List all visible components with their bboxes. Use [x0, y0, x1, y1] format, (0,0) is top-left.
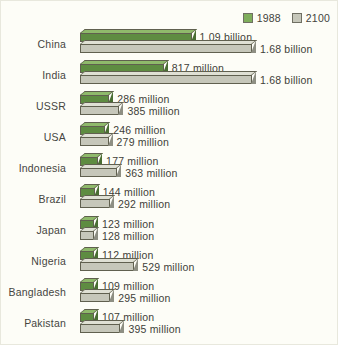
bar-2100-indonesia — [80, 168, 117, 177]
bar-front-face — [80, 262, 134, 271]
bar-front-face — [80, 106, 119, 115]
bar-group: 123 million128 million — [80, 215, 338, 246]
bar-end-cap-icon — [108, 133, 113, 146]
bar-front-face — [80, 293, 110, 302]
category-label-nigeria: Nigeria — [0, 255, 66, 267]
bar-value-label: 529 million — [142, 262, 194, 273]
bar-2100-japan — [80, 231, 94, 240]
bar-2100-china — [80, 44, 252, 53]
bar-front-face — [80, 199, 110, 208]
bar-value-label: 123 million — [102, 219, 154, 230]
category-label-pakistan: Pakistan — [0, 317, 66, 329]
bar-value-label: 363 million — [125, 168, 177, 179]
chart-row: Brazil144 million292 million — [0, 183, 338, 214]
population-bar-chart: 1988 2100 China1.09 billion1.68 billionI… — [0, 0, 338, 345]
category-label-bangladesh: Bangladesh — [0, 286, 66, 298]
bar-group: 112 million529 million — [80, 246, 338, 277]
chart-row: Bangladesh109 million295 million — [0, 277, 338, 308]
bar-end-cap-icon — [116, 164, 121, 177]
bar-front-face — [80, 75, 252, 84]
category-label-brazil: Brazil — [0, 193, 66, 205]
bar-value-label: 128 million — [102, 231, 154, 242]
bar-2100-india — [80, 75, 252, 84]
bar-value-label: 246 million — [113, 125, 165, 136]
category-label-india: India — [0, 69, 66, 81]
gray-swatch-icon — [292, 13, 302, 23]
bar-front-face — [80, 168, 117, 177]
bar-front-face — [80, 231, 94, 240]
bar-group: 107 million395 million — [80, 308, 338, 339]
bar-value-label: 286 million — [117, 94, 169, 105]
bar-end-cap-icon — [93, 227, 98, 240]
chart-row: USA246 million279 million — [0, 121, 338, 152]
chart-row: Pakistan107 million395 million — [0, 308, 338, 339]
bar-2100-pakistan — [80, 324, 120, 333]
category-label-japan: Japan — [0, 224, 66, 236]
chart-row: Japan123 million128 million — [0, 215, 338, 246]
bar-group: 286 million385 million — [80, 90, 338, 121]
bar-2100-bangladesh — [80, 293, 110, 302]
bar-end-cap-icon — [251, 71, 256, 84]
chart-row: Nigeria112 million529 million — [0, 246, 338, 277]
bar-value-label: 385 million — [127, 106, 179, 117]
bar-group: 144 million292 million — [80, 183, 338, 214]
chart-row: China1.09 billion1.68 billion — [0, 28, 338, 59]
bar-end-cap-icon — [109, 195, 114, 208]
legend-item-2100: 2100 — [292, 12, 330, 24]
bar-2100-ussr — [80, 106, 119, 115]
bar-end-cap-icon — [133, 258, 138, 271]
bar-value-label: 295 million — [118, 293, 170, 304]
green-swatch-icon — [243, 13, 253, 23]
bar-front-face — [80, 137, 109, 146]
bar-value-label: 395 million — [128, 324, 180, 335]
bar-group: 109 million295 million — [80, 277, 338, 308]
bar-group: 246 million279 million — [80, 121, 338, 152]
bar-2100-usa — [80, 137, 109, 146]
bar-front-face — [80, 324, 120, 333]
category-label-ussr: USSR — [0, 100, 66, 112]
chart-row: India817 million1.68 billion — [0, 59, 338, 90]
bar-value-label: 1.68 billion — [260, 44, 313, 55]
bar-value-label: 1.68 billion — [260, 75, 313, 86]
category-label-indonesia: Indonesia — [0, 162, 66, 174]
chart-legend: 1988 2100 — [243, 12, 330, 24]
bar-end-cap-icon — [251, 40, 256, 53]
bar-value-label: 279 million — [117, 137, 169, 148]
bar-end-cap-icon — [109, 289, 114, 302]
chart-rows: China1.09 billion1.68 billionIndia817 mi… — [0, 28, 338, 339]
legend-label-2100: 2100 — [306, 12, 330, 24]
bar-value-label: 292 million — [118, 199, 170, 210]
category-label-china: China — [0, 38, 66, 50]
bar-front-face — [80, 44, 252, 53]
bar-end-cap-icon — [118, 102, 123, 115]
chart-row: Indonesia177 million363 million — [0, 152, 338, 183]
bar-2100-nigeria — [80, 262, 134, 271]
category-label-usa: USA — [0, 131, 66, 143]
bar-group: 177 million363 million — [80, 152, 338, 183]
legend-item-1988: 1988 — [243, 12, 281, 24]
bar-2100-brazil — [80, 199, 110, 208]
chart-row: USSR286 million385 million — [0, 90, 338, 121]
bar-group: 1.09 billion1.68 billion — [80, 28, 338, 59]
bar-group: 817 million1.68 billion — [80, 59, 338, 90]
bar-end-cap-icon — [119, 320, 124, 333]
legend-label-1988: 1988 — [257, 12, 281, 24]
